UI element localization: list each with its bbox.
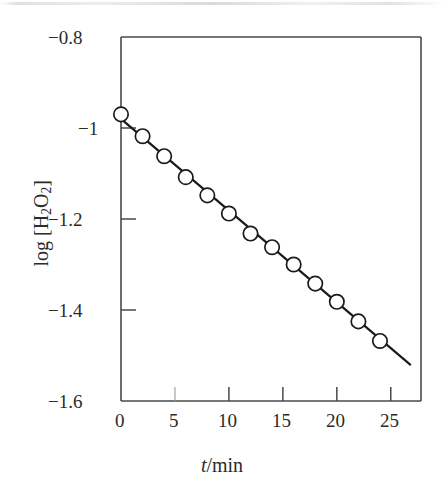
data-point	[373, 334, 387, 348]
y-axis-title: log [H2O2]	[31, 123, 54, 323]
x-tick-label-0: 0	[115, 411, 125, 430]
x-axis-title: t/min	[0, 455, 444, 475]
data-point	[308, 276, 322, 290]
y-tick-marks	[121, 128, 136, 310]
data-point	[243, 226, 257, 240]
data-point	[330, 295, 344, 309]
data-point	[265, 240, 279, 254]
data-point	[351, 314, 365, 328]
y-tick-label-4: −1.6	[48, 392, 82, 411]
x-tick-label-1: 5	[169, 411, 179, 430]
chart-figure: −0.8 −1 −1.2 −1.4 −1.6 0 5 10 15 20 25 t…	[0, 0, 444, 501]
data-point	[135, 129, 149, 143]
y-axis-title-prefix: log [H	[30, 215, 52, 267]
x-tick-label-4: 20	[326, 411, 345, 430]
y-axis-title-sub-o: 2	[39, 187, 54, 194]
data-point	[157, 149, 171, 163]
x-tick-label-3: 15	[272, 411, 291, 430]
data-point	[179, 170, 193, 184]
y-axis-title-suffix: ]	[30, 180, 52, 187]
data-point-markers	[114, 107, 387, 348]
data-point	[286, 257, 300, 271]
data-point	[200, 188, 214, 202]
x-axis-title-unit: /min	[206, 454, 243, 476]
y-axis-title-sub-h: 2	[39, 208, 54, 215]
x-tick-label-2: 10	[218, 411, 237, 430]
x-tick-marks	[175, 387, 391, 401]
data-point	[114, 107, 128, 121]
y-tick-label-1: −1	[78, 119, 98, 138]
data-point	[222, 206, 236, 220]
y-axis-title-oxygen: O	[30, 194, 52, 208]
x-tick-label-5: 25	[380, 411, 399, 430]
y-tick-label-0: −0.8	[48, 28, 82, 47]
